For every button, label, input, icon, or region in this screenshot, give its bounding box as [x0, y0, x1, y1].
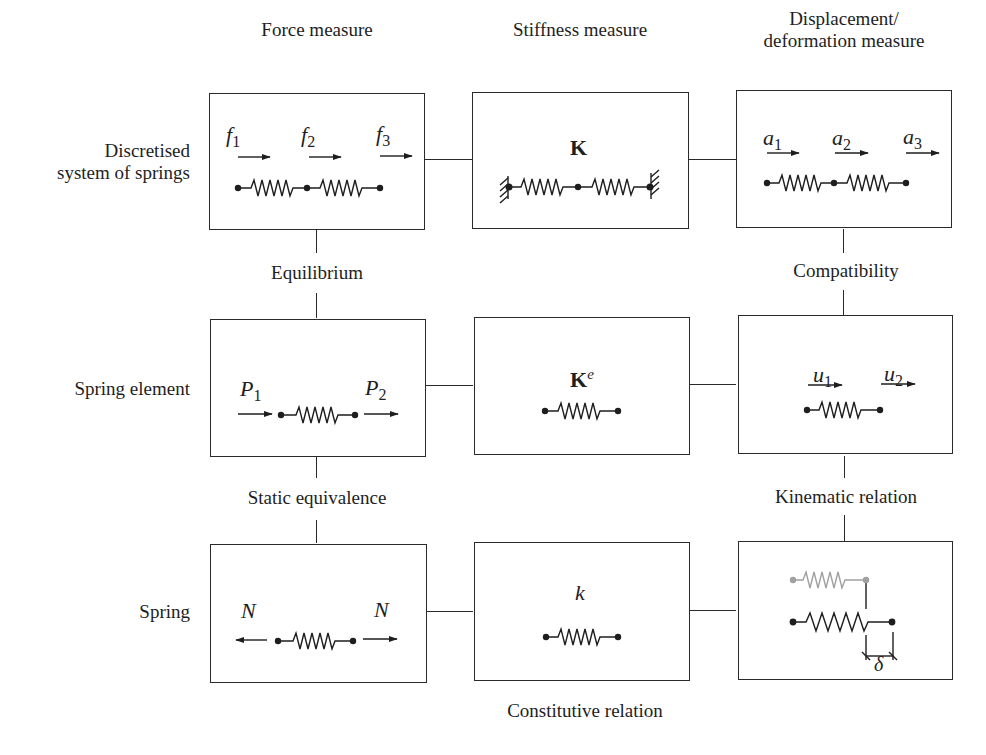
delta-dimension-icon — [862, 632, 897, 660]
diagram-graphics — [0, 0, 986, 755]
element-stiffness-spring-icon — [545, 403, 618, 419]
element-displacement-arrows-u — [808, 384, 915, 385]
spring-force-arrows-N — [236, 639, 397, 640]
force-arrows-f — [238, 156, 412, 157]
undeformed-spring-ghost-icon — [793, 572, 865, 588]
spring-nodes — [235, 180, 909, 644]
spring-stiffness-spring-icon — [546, 629, 618, 645]
wall-hatch-right-icon — [651, 170, 659, 195]
element-displacement-spring-icon — [807, 402, 880, 418]
spring-force-spring-icon — [278, 633, 353, 649]
deformed-spring-icon — [793, 613, 892, 631]
wall-hatch-left-icon — [500, 178, 508, 203]
element-spring-icon — [281, 407, 355, 423]
